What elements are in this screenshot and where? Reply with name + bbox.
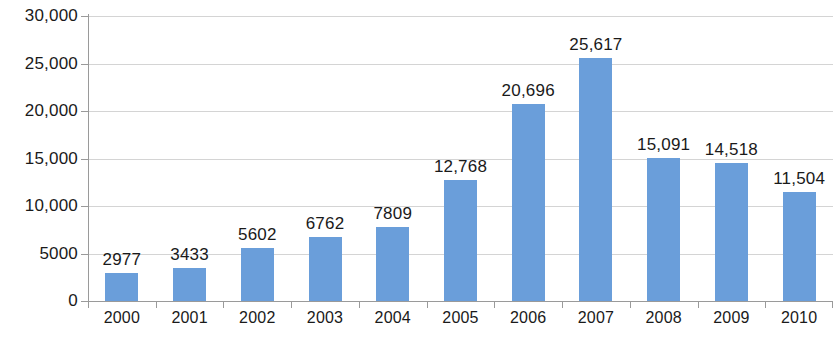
y-axis-tick-label: 5000 xyxy=(2,244,78,264)
x-axis-tick-label: 2008 xyxy=(630,309,698,327)
y-axis-tick xyxy=(81,64,88,65)
y-axis-tick-label: 20,000 xyxy=(2,101,78,121)
y-axis-tick xyxy=(81,16,88,17)
x-axis-tick-label: 2006 xyxy=(494,309,562,327)
y-axis-tick xyxy=(81,301,88,302)
x-axis-tick-label: 2000 xyxy=(88,309,156,327)
x-axis-tick-label: 2007 xyxy=(562,309,630,327)
y-axis-tick xyxy=(81,111,88,112)
x-axis-labels: 2000200120022003200420052006200720082009… xyxy=(88,0,833,341)
x-axis-tick xyxy=(630,301,631,308)
x-axis-tick xyxy=(494,301,495,308)
y-axis-tick xyxy=(81,254,88,255)
y-axis-tick xyxy=(81,159,88,160)
x-axis-tick-label: 2005 xyxy=(427,309,495,327)
x-axis-tick xyxy=(223,301,224,308)
x-axis-tick-label: 2001 xyxy=(156,309,224,327)
y-axis-tick-label: 30,000 xyxy=(2,6,78,26)
x-axis-tick xyxy=(562,301,563,308)
x-axis-tick xyxy=(765,301,766,308)
x-axis-tick xyxy=(427,301,428,308)
x-axis-tick-label: 2002 xyxy=(223,309,291,327)
x-axis-tick xyxy=(359,301,360,308)
x-axis-tick-label: 2003 xyxy=(291,309,359,327)
x-axis-tick-label: 2004 xyxy=(359,309,427,327)
x-axis-tick-label: 2009 xyxy=(698,309,766,327)
y-axis-tick-label: 25,000 xyxy=(2,54,78,74)
y-axis-labels: 0500010,00015,00020,00025,00030,000 xyxy=(0,0,78,341)
x-axis-tick xyxy=(291,301,292,308)
y-axis-tick xyxy=(81,206,88,207)
x-axis-tick xyxy=(156,301,157,308)
y-axis-tick-label: 0 xyxy=(2,291,78,311)
x-axis-tick xyxy=(698,301,699,308)
y-axis-tick-label: 10,000 xyxy=(2,196,78,216)
x-axis-tick xyxy=(88,301,89,308)
bar-chart: 0500010,00015,00020,00025,00030,000 2977… xyxy=(0,0,833,341)
x-axis-tick-label: 2010 xyxy=(765,309,833,327)
y-axis-tick-label: 15,000 xyxy=(2,149,78,169)
